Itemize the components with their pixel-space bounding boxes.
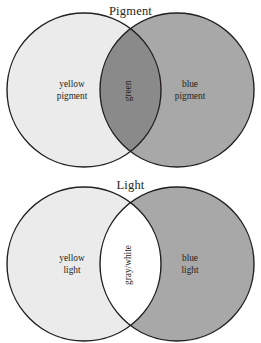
yellow-light-label-line2: light (63, 265, 80, 275)
figure-light: Light yellow light blue light gray/white (0, 172, 261, 343)
blue-pigment-label-line2: pigment (175, 91, 206, 101)
venn-diagram-pigment: yellow pigment blue pigment green (0, 0, 261, 172)
blue-light-label-line1: blue (182, 253, 198, 263)
yellow-pigment-label-line2: pigment (57, 91, 88, 101)
pigment-overlap-label: green (123, 80, 133, 101)
venn-diagram-light: yellow light blue light gray/white (0, 172, 261, 343)
yellow-pigment-label-line1: yellow (59, 79, 85, 89)
yellow-light-label-line1: yellow (59, 253, 85, 263)
figure-pigment: Pigment yellow pigment blue pigment gree… (0, 0, 261, 172)
light-overlap-label: gray/white (123, 245, 133, 285)
blue-light-label-line2: light (181, 265, 198, 275)
blue-pigment-label-line1: blue (182, 79, 198, 89)
